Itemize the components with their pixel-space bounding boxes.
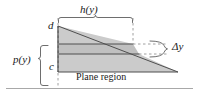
label-delta-y: Δy — [172, 41, 183, 52]
brace-delta-y — [150, 41, 168, 57]
label-p-of-y: p(y) — [13, 54, 31, 65]
label-h-of-y: h(y) — [80, 4, 98, 15]
region-upper-wedge — [58, 26, 133, 44]
label-upper-limit-d: d — [48, 20, 54, 31]
brace-h-of-y — [59, 15, 133, 22]
label-plane-region: Plane region — [76, 72, 126, 82]
figure-canvas — [0, 0, 199, 99]
region-lower-wedge — [58, 54, 178, 72]
brace-p-of-y — [38, 46, 48, 86]
plane-region-figure: h(y) d c p(y) Δy Plane region — [0, 0, 199, 99]
label-lower-limit-c: c — [49, 61, 54, 72]
